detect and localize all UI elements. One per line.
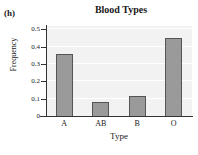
y-tick-mark: [41, 47, 46, 48]
y-tick-label: 0: [14, 112, 40, 120]
x-tick-label: AB: [87, 119, 115, 131]
bar: [92, 102, 109, 116]
bar-series: [46, 26, 192, 116]
x-tick-label: B: [123, 119, 151, 131]
x-axis-line: [40, 116, 193, 117]
y-tick-mark: [41, 99, 46, 100]
y-axis-line: [46, 25, 47, 117]
y-tick-mark: [41, 116, 46, 117]
bar: [165, 38, 182, 116]
x-tick-label: A: [50, 119, 78, 131]
x-axis-tick-labels: AABBO: [46, 119, 192, 131]
chart-title: Blood Types: [48, 4, 194, 15]
y-tick-label: 0.1: [14, 95, 40, 103]
y-tick-label: 0.3: [14, 60, 40, 68]
bar: [56, 54, 73, 116]
y-tick-label: 0.2: [14, 77, 40, 85]
figure-container: (h) Blood Types 00.10.20.30.40.5 Frequen…: [0, 0, 198, 155]
x-tick-label: O: [160, 119, 188, 131]
x-axis-title: Type: [46, 131, 192, 141]
y-tick-label: 0.5: [14, 25, 40, 33]
y-axis-title: Frequency: [9, 25, 18, 85]
plot-area: [46, 26, 192, 116]
y-tick-mark: [41, 81, 46, 82]
y-tick-mark: [41, 64, 46, 65]
bar: [129, 96, 146, 116]
y-tick-label: 0.4: [14, 43, 40, 51]
y-tick-mark: [41, 29, 46, 30]
